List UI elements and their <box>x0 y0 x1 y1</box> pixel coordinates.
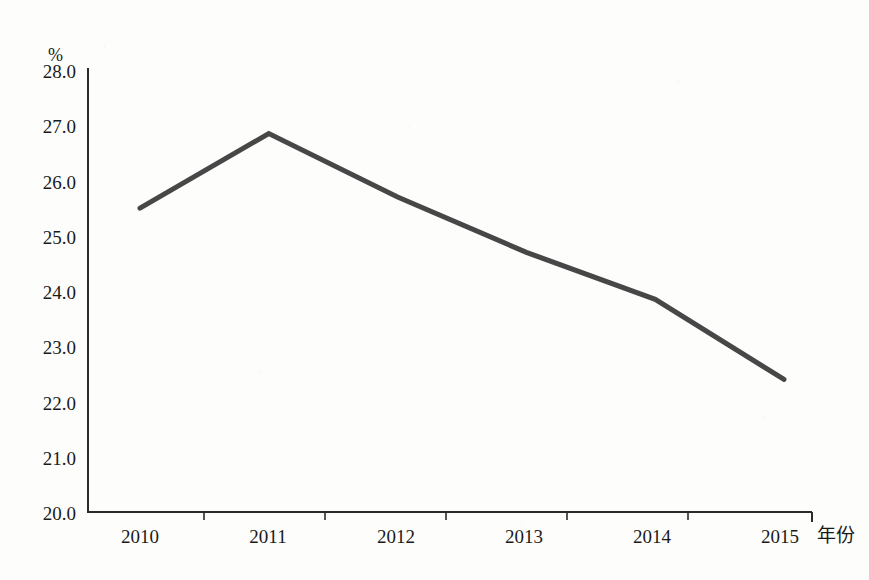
chart-container: % 28.0 27.0 26.0 25.0 24.0 23.0 22.0 21.… <box>0 0 869 580</box>
x-axis-ticks <box>204 512 688 520</box>
data-series-line <box>140 134 784 380</box>
plot-area <box>0 0 869 580</box>
